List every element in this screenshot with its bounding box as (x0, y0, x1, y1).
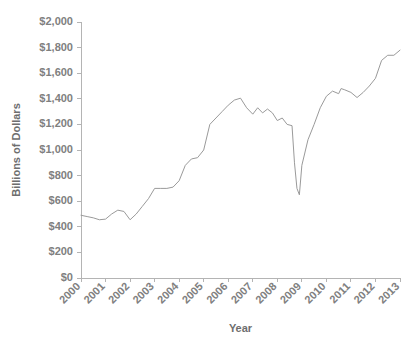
y-axis-tick-label: $0 (61, 271, 73, 283)
y-axis-tick-label: $1,800 (39, 41, 73, 53)
y-axis-tick-label: $800 (49, 169, 73, 181)
x-axis-tick-label: 2002 (106, 280, 132, 306)
x-axis-tick-label: 2000 (57, 280, 83, 306)
y-axis: $0$200$400$600$800$1,000$1,200$1,400$1,6… (39, 15, 81, 283)
x-axis-tick-label: 2011 (327, 280, 352, 305)
y-axis-tick-label: $400 (49, 220, 73, 232)
x-axis: 2000200120022003200420052006200720082009… (57, 278, 402, 306)
x-axis-tick-label: 2010 (302, 280, 328, 306)
x-axis-tick-label: 2013 (376, 280, 402, 306)
y-axis-tick-label: $1,200 (39, 117, 73, 129)
x-axis-tick-label: 2008 (253, 280, 279, 306)
y-axis-tick-label: $600 (49, 194, 73, 206)
data-series (81, 50, 400, 220)
x-axis-tick-label: 2009 (277, 280, 303, 306)
y-axis-title: Billions of Dollars (10, 103, 22, 197)
x-axis-tick-label: 2001 (81, 280, 107, 306)
x-axis-tick-label: 2005 (179, 280, 205, 306)
line-chart: $0$200$400$600$800$1,000$1,200$1,400$1,6… (0, 0, 417, 346)
y-axis-tick-label: $1,000 (39, 143, 73, 155)
series-line (81, 50, 400, 220)
chart-plot-area: $0$200$400$600$800$1,000$1,200$1,400$1,6… (0, 0, 417, 346)
y-axis-tick-label: $1,600 (39, 66, 73, 78)
y-axis-tick-label: $1,400 (39, 92, 73, 104)
x-axis-tick-label: 2012 (351, 280, 377, 306)
x-axis-tick-label: 2006 (204, 280, 230, 306)
y-axis-tick-label: $200 (49, 245, 73, 257)
x-axis-tick-label: 2004 (155, 279, 181, 305)
x-axis-tick-label: 2007 (228, 280, 254, 306)
x-axis-tick-label: 2003 (130, 280, 156, 306)
y-axis-tick-label: $2,000 (39, 15, 73, 27)
x-axis-title: Year (229, 322, 253, 334)
